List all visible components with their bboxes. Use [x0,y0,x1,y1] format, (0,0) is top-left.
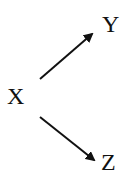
edge-x-to-y-arrow [40,34,92,79]
node-z: Z [101,150,116,174]
diagram-canvas: X Y Z [0,0,129,184]
edge-x-to-z-arrow [40,117,94,160]
node-x: X [7,84,24,108]
node-y: Y [102,12,119,36]
